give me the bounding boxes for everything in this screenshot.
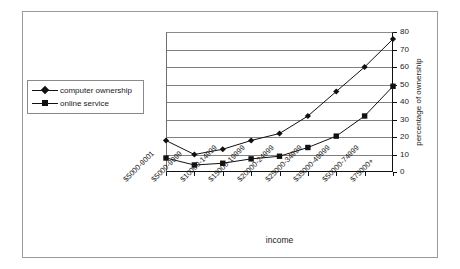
data-point-square bbox=[362, 113, 367, 118]
y-axis-tick-label: 10 bbox=[400, 151, 409, 159]
data-point-square bbox=[334, 133, 339, 138]
y-axis-tick bbox=[393, 120, 397, 121]
legend-item-computer-ownership: computer ownership bbox=[32, 84, 139, 97]
data-point-square bbox=[305, 145, 310, 150]
y-axis-tick-label: 0 bbox=[400, 168, 404, 176]
legend-item-online-service: online service bbox=[32, 97, 139, 110]
y-axis-tick bbox=[393, 102, 397, 103]
y-axis-tick-label: 50 bbox=[400, 81, 409, 89]
y-axis-title: percentage of ownership bbox=[414, 32, 426, 172]
y-axis-tick bbox=[393, 137, 397, 138]
x-axis-tick bbox=[393, 172, 394, 176]
legend-label: online service bbox=[58, 99, 109, 108]
y-axis-tick bbox=[393, 155, 397, 156]
chart-legend: computer ownership online service bbox=[27, 80, 144, 114]
data-point-diamond bbox=[220, 146, 226, 152]
series-2 bbox=[163, 84, 395, 168]
series-1 bbox=[163, 36, 396, 158]
y-axis-tick-label: 70 bbox=[400, 46, 409, 54]
legend-marker-diamond-icon bbox=[32, 85, 58, 96]
legend-label: computer ownership bbox=[58, 86, 132, 95]
y-axis-tick bbox=[393, 67, 397, 68]
data-point-diamond bbox=[191, 151, 197, 157]
y-axis-tick-label: 80 bbox=[400, 28, 409, 36]
y-axis-tick bbox=[393, 32, 397, 33]
y-axis-tick-label: 20 bbox=[400, 133, 409, 141]
y-axis-tick-label: 40 bbox=[400, 98, 409, 106]
chart-figure: 01020304050607080 percentage of ownershi… bbox=[0, 0, 460, 269]
data-point-diamond bbox=[276, 130, 282, 136]
y-axis-tick bbox=[393, 85, 397, 86]
legend-marker-square-icon bbox=[32, 98, 58, 109]
y-axis-tick bbox=[393, 50, 397, 51]
y-axis-tick-label: 60 bbox=[400, 63, 409, 71]
series-line bbox=[166, 39, 393, 155]
data-point-diamond bbox=[248, 137, 254, 143]
y-axis-tick-label: 30 bbox=[400, 116, 409, 124]
x-axis-title: income bbox=[166, 235, 393, 245]
